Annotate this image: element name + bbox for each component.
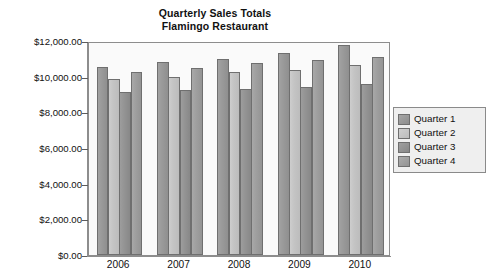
- legend-swatch-icon: [398, 156, 410, 167]
- bar-2009-q2: [289, 70, 301, 255]
- legend-item-quarter-3: Quarter 3: [398, 140, 482, 154]
- bar-2009-q1: [278, 53, 290, 255]
- y-axis-tick-label: $12,000.00: [2, 37, 82, 47]
- bars-container: [89, 43, 389, 255]
- bar-2006-q1: [97, 67, 109, 255]
- bar-2009-q4: [312, 60, 324, 255]
- legend-item-quarter-4: Quarter 4: [398, 154, 482, 168]
- y-axis-tick-label: $6,000.00: [2, 144, 82, 154]
- bar-2007-q1: [157, 62, 169, 255]
- x-axis-tick-label: 2008: [209, 259, 269, 271]
- bar-2008-q2: [229, 72, 241, 255]
- y-axis-tick-label: $10,000.00: [2, 73, 82, 83]
- chart-legend: Quarter 1Quarter 2Quarter 3Quarter 4: [393, 107, 486, 173]
- x-axis-tick-label: 2007: [148, 259, 208, 271]
- bar-2010-q2: [349, 65, 361, 255]
- legend-item-label: Quarter 1: [414, 113, 455, 125]
- bar-2009-q3: [300, 87, 312, 255]
- legend-item-label: Quarter 3: [414, 141, 455, 153]
- x-axis-line: [87, 256, 391, 257]
- bar-2010-q1: [338, 45, 350, 255]
- bar-2008-q3: [240, 89, 252, 255]
- y-axis-tick-label: $0.00: [2, 251, 82, 261]
- x-axis-tick-label: 2006: [88, 259, 148, 271]
- bar-2006-q4: [131, 72, 143, 255]
- bar-2007-q4: [191, 68, 203, 255]
- y-axis-tick-label: $4,000.00: [2, 180, 82, 190]
- bar-2010-q4: [372, 57, 384, 255]
- bar-2010-q3: [361, 84, 373, 255]
- legend-swatch-icon: [398, 142, 410, 153]
- bar-2007-q2: [168, 77, 180, 255]
- bar-2007-q3: [180, 90, 192, 255]
- y-axis-tick-label: $2,000.00: [2, 215, 82, 225]
- legend-swatch-icon: [398, 114, 410, 125]
- x-axis-tick-label: 2009: [269, 259, 329, 271]
- legend-item-label: Quarter 4: [414, 155, 455, 167]
- plot-area: [88, 42, 390, 256]
- bar-2006-q3: [119, 92, 131, 255]
- y-axis-tick-label: $8,000.00: [2, 108, 82, 118]
- bar-chart: Quarterly Sales Totals Flamingo Restaura…: [0, 0, 496, 279]
- bar-2008-q4: [251, 63, 263, 255]
- x-axis-tick-label: 2010: [330, 259, 390, 271]
- bar-2008-q1: [217, 59, 229, 255]
- legend-item-label: Quarter 2: [414, 127, 455, 139]
- legend-item-quarter-2: Quarter 2: [398, 126, 482, 140]
- bar-2006-q2: [108, 79, 120, 255]
- legend-swatch-icon: [398, 128, 410, 139]
- legend-item-quarter-1: Quarter 1: [398, 112, 482, 126]
- y-axis-labels: $12,000.00$10,000.00$8,000.00$6,000.00$4…: [0, 0, 82, 279]
